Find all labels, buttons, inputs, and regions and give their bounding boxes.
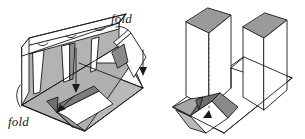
fold-label-left: fold: [8, 114, 29, 129]
left-fold-leader: [17, 85, 21, 107]
left-folded-structure: [17, 14, 148, 131]
fold-label-right: fold: [111, 11, 132, 26]
figure-root: fold fold: [0, 0, 305, 139]
right-wall-left-front: [186, 22, 209, 108]
diagram-canvas: fold fold: [0, 0, 305, 139]
right-folded-structure: [173, 8, 292, 133]
right-wall-right-front: [243, 27, 264, 110]
